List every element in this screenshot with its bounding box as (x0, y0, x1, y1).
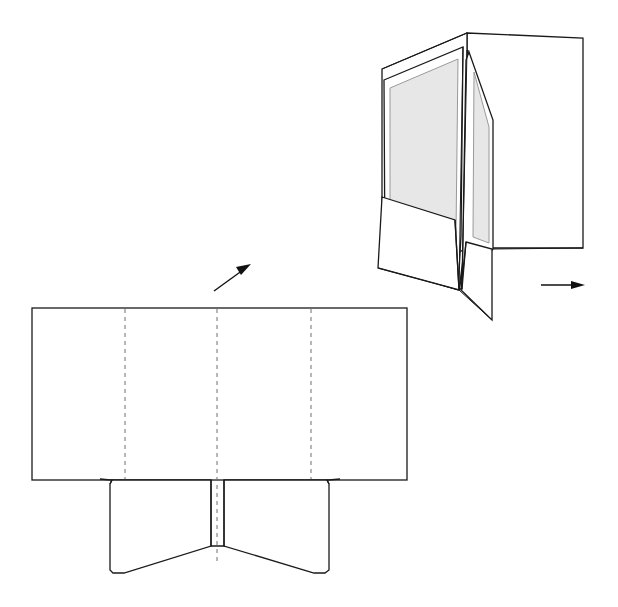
blank-body-face (32, 308, 407, 480)
assembly-direction-arrow (214, 264, 251, 291)
diagram-canvas: Presentation folder assembly diagram (0, 0, 618, 607)
closing-direction-arrow (541, 281, 585, 289)
flap-corner-nick-right (327, 479, 340, 484)
pocket-flap-left-face (110, 480, 211, 573)
flap-corner-nick-left (100, 479, 112, 484)
assembly-arrow-shaft (214, 270, 243, 291)
pocket-flap-right-face (224, 480, 329, 573)
closing-arrow-head (571, 281, 585, 289)
assembled-folder-group (378, 33, 583, 320)
folder-assembly-figure: Presentation folder assembly diagram (0, 0, 618, 607)
flat-blank-group (32, 308, 407, 573)
